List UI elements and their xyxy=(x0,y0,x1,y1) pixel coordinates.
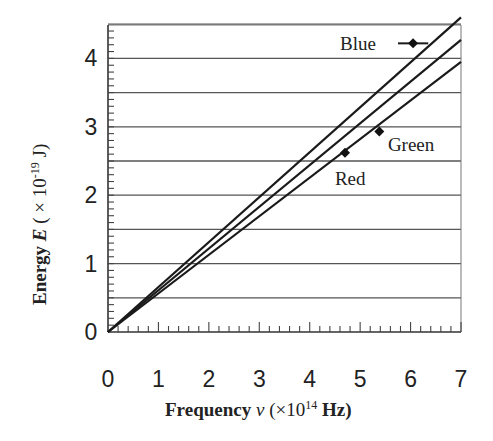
x-tick-label: 0 xyxy=(102,366,115,392)
x-tick-label: 6 xyxy=(404,366,417,392)
plot-area xyxy=(108,17,461,332)
x-axis-label: Frequency ν (×1014 Hz) xyxy=(165,398,351,421)
annotation-green: Green xyxy=(388,134,435,155)
annotation-blue: Blue xyxy=(340,33,376,54)
fit-line xyxy=(108,40,461,332)
data-point-blue xyxy=(408,38,418,48)
x-tick-label: 2 xyxy=(202,366,215,392)
y-axis-label: Energy E ( × 10-19 J) xyxy=(28,144,51,305)
y-tick-label: 2 xyxy=(85,182,98,208)
x-tick-label: 4 xyxy=(303,366,316,392)
x-tick-label: 7 xyxy=(455,366,468,392)
y-tick-label: 4 xyxy=(85,45,98,71)
energy-frequency-chart: 0123456701234BlueGreenRedFrequency ν (×1… xyxy=(0,0,493,441)
y-tick-label: 1 xyxy=(85,251,98,277)
fit-line xyxy=(108,62,461,332)
annotation-red: Red xyxy=(335,168,366,189)
x-tick-label: 1 xyxy=(152,366,165,392)
x-tick-label: 5 xyxy=(354,366,367,392)
y-tick-label: 3 xyxy=(85,114,98,140)
x-tick-label: 3 xyxy=(253,366,266,392)
fit-line xyxy=(108,17,461,332)
y-tick-label: 0 xyxy=(85,319,98,345)
